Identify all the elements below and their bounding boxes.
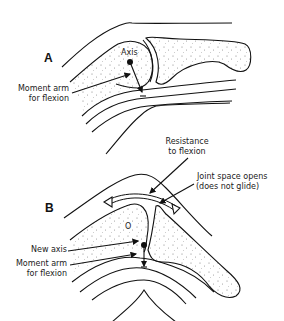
moment-arm-label-a-line2: for flexion xyxy=(12,94,69,104)
moment-arm-label-a-line1: Moment arm xyxy=(12,84,69,94)
new-axis-point xyxy=(141,242,147,248)
axis-label: Axis xyxy=(121,48,138,58)
joint-space-label-line1: Joint space opens xyxy=(197,172,267,182)
resistance-label-line2: to flexion xyxy=(152,147,222,157)
joint-flexion-diagram: A Axis Moment arm for flexion B Resistan… xyxy=(0,0,284,321)
moment-arm-label-b-line1: Moment arm xyxy=(8,259,67,269)
new-axis-label: New axis xyxy=(12,245,67,255)
panel-a-drawing xyxy=(62,23,251,154)
panel-label-b: B xyxy=(45,201,54,215)
joint-space-label-line2: (does not glide) xyxy=(196,182,259,192)
axis-point-a xyxy=(127,59,133,65)
moment-arm-label-b-line2: for flexion xyxy=(8,269,67,279)
old-axis-marker: O xyxy=(125,222,131,232)
resistance-label-line1: Resistance xyxy=(152,137,222,147)
panel-label-a: A xyxy=(44,51,53,65)
